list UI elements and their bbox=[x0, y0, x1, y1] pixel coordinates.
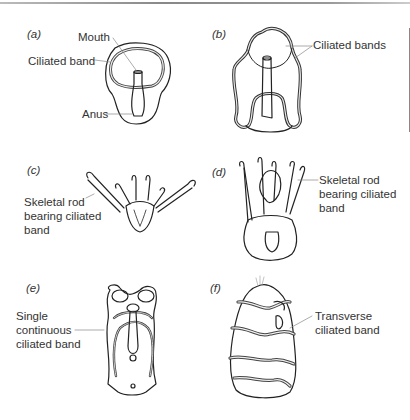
label-skeletal-rod-c-3: band bbox=[24, 224, 50, 237]
label-transverse-2: ciliated band bbox=[315, 324, 380, 337]
label-ciliated-bands: Ciliated bands bbox=[313, 39, 386, 52]
larva-b-drawing bbox=[234, 29, 312, 132]
panel-label-b: (b) bbox=[212, 28, 226, 40]
label-skeletal-rod-c-1: Skeletal rod bbox=[24, 196, 85, 209]
panel-label-e: (e) bbox=[26, 282, 40, 294]
larva-f-drawing bbox=[230, 276, 312, 398]
larva-e-drawing bbox=[75, 285, 156, 395]
larva-d-drawing bbox=[240, 158, 318, 261]
panel-label-f: (f) bbox=[210, 282, 221, 294]
panel-label-a: (a) bbox=[27, 28, 41, 40]
label-mouth: Mouth bbox=[78, 31, 110, 44]
label-skeletal-rod-d-3: band bbox=[319, 202, 345, 215]
panel-label-c: (c) bbox=[27, 164, 40, 176]
label-ciliated-band-a: Ciliated band bbox=[28, 55, 95, 68]
panel-label-d: (d) bbox=[212, 166, 226, 178]
label-anus: Anus bbox=[82, 108, 108, 121]
label-skeletal-rod-d-2: bearing ciliated bbox=[319, 188, 396, 201]
label-single-continuous-2: continuous bbox=[16, 324, 72, 337]
larva-c-drawing bbox=[86, 172, 195, 232]
label-transverse-1: Transverse bbox=[315, 310, 372, 323]
label-single-continuous-1: Single bbox=[16, 310, 48, 323]
label-single-continuous-3: ciliated band bbox=[16, 338, 81, 351]
label-skeletal-rod-d-1: Skeletal rod bbox=[319, 174, 380, 187]
label-skeletal-rod-c-2: bearing ciliated bbox=[24, 210, 101, 223]
